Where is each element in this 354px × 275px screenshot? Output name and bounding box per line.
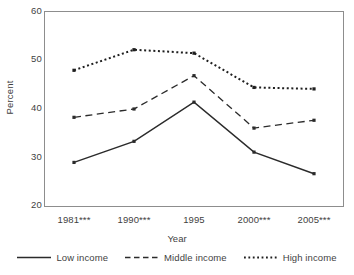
data-point-marker [192, 101, 195, 104]
x-tick-label: 2005*** [274, 214, 354, 225]
data-point-marker [312, 87, 315, 90]
data-point-marker [252, 151, 255, 154]
data-point-marker [72, 69, 75, 72]
legend-label: High income [283, 252, 337, 263]
data-point-marker [132, 140, 135, 143]
data-point-marker [312, 172, 315, 175]
line-chart: Percent 60 50 40 30 20 1981***1990***199… [0, 0, 354, 275]
y-tick-label: 60 [4, 6, 42, 16]
series-layer [44, 11, 344, 207]
data-point-marker [252, 86, 255, 89]
legend-key-dotted-icon [244, 253, 278, 262]
y-tick-label: 20 [4, 200, 42, 210]
y-tick-label: 40 [4, 103, 42, 113]
legend-item-high-income[interactable]: High income [244, 252, 337, 263]
series-line [74, 50, 314, 89]
data-point-marker [192, 74, 195, 77]
data-point-marker [132, 107, 135, 110]
legend-item-low-income[interactable]: Low income [17, 252, 108, 263]
legend-key-solid-icon [17, 253, 51, 262]
data-point-marker [72, 116, 75, 119]
y-tick-label: 30 [4, 152, 42, 162]
data-point-marker [72, 161, 75, 164]
data-point-marker [132, 48, 135, 51]
legend-key-dashed-icon [125, 253, 159, 262]
x-axis-title: Year [0, 233, 354, 244]
data-point-marker [192, 52, 195, 55]
chart-legend: Low income Middle income High income [0, 252, 354, 263]
legend-item-middle-income[interactable]: Middle income [125, 252, 227, 263]
data-point-marker [252, 127, 255, 130]
y-tick-label: 50 [4, 54, 42, 64]
data-point-marker [312, 119, 315, 122]
legend-label: Low income [56, 252, 108, 263]
legend-label: Middle income [164, 252, 227, 263]
